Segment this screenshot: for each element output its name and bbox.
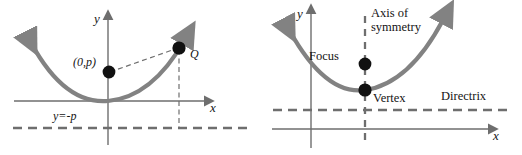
x-axis-label: x bbox=[493, 129, 499, 143]
y-axis-label: y bbox=[94, 12, 100, 26]
vertex-label: Vertex bbox=[373, 92, 406, 105]
y-axis-label: y bbox=[297, 7, 303, 21]
focus-point bbox=[103, 66, 116, 79]
focus-label: Focus bbox=[309, 50, 339, 63]
left-diagram-panel: y x (0,p) Q y=-p bbox=[0, 0, 261, 155]
vertex-point bbox=[358, 83, 371, 96]
directrix-label: Directrix bbox=[441, 90, 486, 103]
axis-of-symmetry-label: Axis of symmetry bbox=[371, 6, 421, 34]
directrix-equation-label: y=-p bbox=[53, 110, 76, 123]
right-diagram-panel: y x Axis of symmetry Focus Vertex Direct… bbox=[261, 0, 522, 155]
left-diagram-svg bbox=[0, 0, 261, 155]
x-axis-label: x bbox=[210, 101, 216, 115]
focus-to-point-dashed-line bbox=[110, 48, 178, 72]
q-point bbox=[172, 41, 185, 54]
parabola-figure: y x (0,p) Q y=-p bbox=[0, 0, 522, 155]
q-point-label: Q bbox=[190, 48, 199, 61]
focus-coordinate-label: (0,p) bbox=[73, 56, 96, 69]
focus-point bbox=[359, 58, 372, 71]
